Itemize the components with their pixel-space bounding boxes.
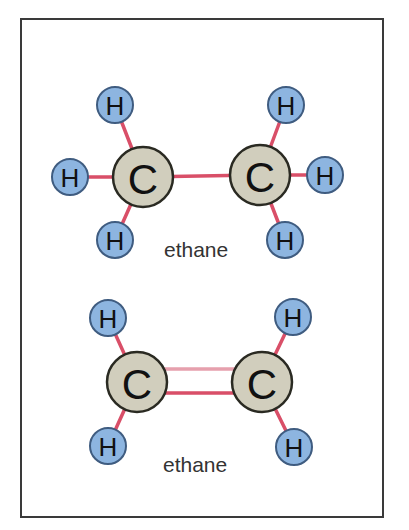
molecule-ethane-double-bond: H H H H C C ethane (90, 299, 312, 476)
hydrogen-atom: H (52, 159, 88, 195)
svg-text:H: H (99, 432, 118, 462)
svg-text:C: C (122, 361, 152, 408)
molecule-caption: ethane (164, 238, 228, 261)
carbon-atom: C (107, 352, 167, 412)
svg-text:C: C (128, 156, 158, 203)
svg-text:H: H (61, 163, 80, 193)
hydrogen-atom: H (267, 222, 303, 258)
hydrogen-atom: H (97, 222, 133, 258)
hydrogen-atom: H (276, 429, 312, 465)
svg-text:H: H (284, 303, 303, 333)
svg-text:H: H (316, 161, 335, 191)
carbon-atom: C (232, 352, 292, 412)
svg-text:H: H (106, 226, 125, 256)
hydrogen-atom: H (268, 87, 304, 123)
svg-text:C: C (245, 154, 275, 201)
molecule-diagram: H H H H H H C C ethane (0, 0, 409, 530)
svg-text:H: H (277, 91, 296, 121)
svg-text:H: H (106, 91, 125, 121)
hydrogen-atom: H (307, 157, 343, 193)
svg-text:H: H (99, 304, 118, 334)
svg-text:H: H (285, 433, 304, 463)
molecule-ethane-single-bond: H H H H H H C C ethane (52, 87, 343, 261)
svg-text:H: H (276, 226, 295, 256)
carbon-atom: C (113, 147, 173, 207)
hydrogen-atom: H (97, 87, 133, 123)
svg-text:C: C (247, 361, 277, 408)
carbon-atom: C (230, 145, 290, 205)
molecule-caption: ethane (163, 453, 227, 476)
hydrogen-atom: H (90, 428, 126, 464)
hydrogen-atom: H (275, 299, 311, 335)
hydrogen-atom: H (90, 300, 126, 336)
